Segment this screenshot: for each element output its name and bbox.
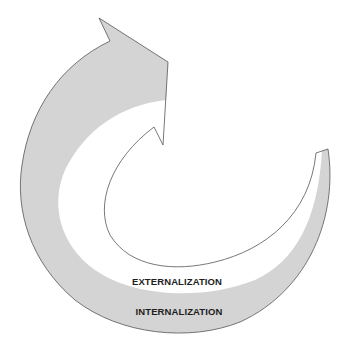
spiral-arrow-diagram: EXTERNALIZATION INTERNALIZATION (0, 0, 349, 348)
internalization-label: INTERNALIZATION (136, 306, 223, 317)
externalization-label: EXTERNALIZATION (132, 276, 222, 287)
